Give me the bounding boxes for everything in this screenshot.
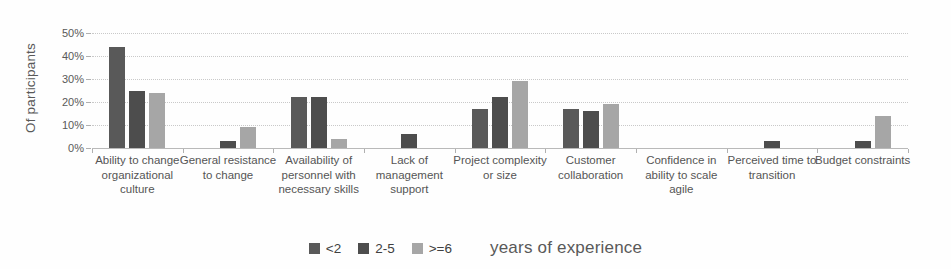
bar-s2-c2 <box>220 141 236 148</box>
category-label: Customer collaboration <box>542 153 639 182</box>
gridline <box>92 79 908 80</box>
bar-s2-c3 <box>311 97 327 148</box>
bar-chart: Of participants 0%10%20%30%40%50% Abilit… <box>0 0 951 269</box>
y-axis-tick <box>86 33 91 34</box>
legend: <22-5>=6 years of experience <box>0 236 951 260</box>
category-label: Project complexity or size <box>452 153 549 182</box>
bar-s2-c8 <box>764 141 780 148</box>
bar-s3-c1 <box>149 93 165 148</box>
bar-s1-c5 <box>472 109 488 148</box>
bar-s1-c3 <box>291 97 307 148</box>
y-axis-tick-label: 0% <box>52 141 84 155</box>
x-axis-line <box>92 148 908 149</box>
y-axis-tick <box>86 125 91 126</box>
bar-s1-c1 <box>109 47 125 148</box>
bar-s1-c6 <box>563 109 579 148</box>
category-label: General resistance to change <box>180 153 277 182</box>
bar-s3-c9 <box>875 116 891 148</box>
gridline <box>92 33 908 34</box>
y-axis-tick-label: 10% <box>52 118 84 132</box>
legend-swatch <box>358 243 369 254</box>
y-axis-tick-label: 30% <box>52 72 84 86</box>
bar-s3-c6 <box>603 104 619 148</box>
category-label: Ability to change organizational culture <box>89 153 186 197</box>
y-axis-title: Of participants <box>23 43 38 133</box>
legend-item: 2-5 <box>358 241 395 256</box>
y-axis-tick-label: 20% <box>52 95 84 109</box>
legend-label: >=6 <box>429 241 452 256</box>
category-label: Perceived time to transition <box>724 153 821 182</box>
bar-s3-c5 <box>512 81 528 148</box>
y-axis-tick <box>86 102 91 103</box>
legend-swatch <box>309 243 320 254</box>
category-label: Lack of management support <box>361 153 458 197</box>
legend-label: 2-5 <box>375 241 395 256</box>
bar-s3-c2 <box>240 127 256 148</box>
y-axis-tick-label: 40% <box>52 49 84 63</box>
y-axis-tick <box>86 148 91 149</box>
category-label: Availability of personnel with necessary… <box>270 153 367 197</box>
legend-label: <2 <box>326 241 341 256</box>
bar-s2-c1 <box>129 91 145 149</box>
bar-s3-c3 <box>331 139 347 148</box>
category-label: Budget constraints <box>814 153 911 168</box>
legend-swatch <box>412 243 423 254</box>
category-label: Confidence in ability to scale agile <box>633 153 730 197</box>
bar-s2-c6 <box>583 111 599 148</box>
bar-s2-c9 <box>855 141 871 148</box>
legend-item: <2 <box>309 241 341 256</box>
bar-s2-c5 <box>492 97 508 148</box>
gridline <box>92 56 908 57</box>
y-axis-tick <box>86 56 91 57</box>
legend-items: <22-5>=6 <box>309 241 452 256</box>
bar-s2-c4 <box>401 134 417 148</box>
y-axis-tick <box>86 79 91 80</box>
y-axis-tick-label: 50% <box>52 26 84 40</box>
legend-item: >=6 <box>412 241 452 256</box>
legend-suffix: years of experience <box>490 238 642 258</box>
